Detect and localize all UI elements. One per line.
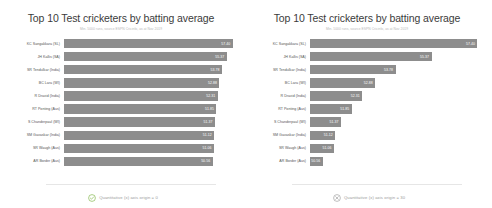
bar-value-label: 53.78 — [384, 67, 396, 73]
bar-value-label: 55.37 — [215, 54, 227, 60]
bar-value-label: 52.88 — [208, 80, 220, 86]
bar-track: 51.37 — [64, 117, 236, 126]
bar-row: SR Tendulkar (India)53.78 — [6, 63, 236, 76]
right-chart-subtitle: Min. 5000 runs, source ESPN Cricinfo, as… — [254, 26, 480, 32]
bar-row: S Chanderpaul (WI)51.37 — [6, 116, 236, 129]
left-chart-title: Top 10 Test cricketers by batting averag… — [8, 12, 234, 25]
bar-category-label: SM Gavaskar (India) — [252, 132, 310, 138]
bar-category-label: SM Gavaskar (India) — [6, 132, 64, 138]
left-footer-label: Quantitative (x) axis origin = 0 — [99, 194, 158, 202]
bar-track: 51.06 — [310, 144, 482, 153]
bar-value-label: 52.31 — [351, 93, 363, 99]
bar-track: 57.40 — [310, 39, 482, 48]
bar-value-label: 57.40 — [221, 41, 233, 47]
right-footer-divider — [292, 184, 462, 185]
bar-row: JH Kallis (SA)55.37 — [252, 50, 482, 63]
bar-track: 51.12 — [64, 131, 236, 140]
bar-category-label: R Dravid (India) — [252, 93, 310, 99]
bar-track: 50.56 — [64, 157, 236, 166]
bar-track: 52.88 — [310, 78, 482, 87]
bar-track: 53.78 — [310, 65, 482, 74]
bar-category-label: BC Lara (WI) — [6, 80, 64, 86]
bar-category-label: R Dravid (India) — [6, 93, 64, 99]
bar-track: 52.88 — [64, 78, 236, 87]
bar-category-label: KC Sangakkara (SL) — [252, 41, 310, 47]
bar-row: RT Ponting (Aus)51.85 — [6, 102, 236, 115]
bar-category-label: AR Border (Aus) — [6, 158, 64, 164]
bar-row: BC Lara (WI)52.88 — [252, 76, 482, 89]
two-panel-bar-chart-figure: Top 10 Test cricketers by batting averag… — [0, 0, 492, 208]
bar-track: 50.56 — [310, 157, 482, 166]
left-chart-footer: Quantitative (x) axis origin = 0 — [0, 194, 246, 202]
bar: 51.85 — [310, 104, 352, 113]
bar-value-label: 51.85 — [340, 106, 352, 112]
bar-track: 51.85 — [310, 104, 482, 113]
bar-track: 51.12 — [310, 131, 482, 140]
bar-category-label: JH Kallis (SA) — [252, 54, 310, 60]
left-chart-subtitle: Min. 5000 runs, source ESPN Cricinfo, as… — [8, 26, 234, 32]
bar-row: SM Gavaskar (India)51.12 — [252, 129, 482, 142]
left-chart-panel: Top 10 Test cricketers by batting averag… — [0, 0, 246, 208]
right-chart-plot-area: KC Sangakkara (SL)57.40JH Kallis (SA)55.… — [246, 37, 492, 168]
bar-track: 51.06 — [64, 144, 236, 153]
bar: 51.12 — [310, 131, 335, 140]
cross-circle-icon — [333, 194, 341, 202]
bar-category-label: S Chanderpaul (WI) — [252, 119, 310, 125]
bar: 57.40 — [310, 39, 477, 48]
bar-track: 57.40 — [64, 39, 236, 48]
bar-category-label: SR Waugh (Aus) — [6, 145, 64, 151]
bar-value-label: 52.31 — [206, 93, 218, 99]
bar-category-label: SR Tendulkar (India) — [6, 67, 64, 73]
bar: 53.78 — [64, 65, 222, 74]
bar-row: AR Border (Aus)50.56 — [6, 155, 236, 168]
bar-value-label: 53.78 — [211, 67, 223, 73]
right-chart-title: Top 10 Test cricketers by batting averag… — [254, 12, 480, 25]
bar-value-label: 51.06 — [322, 145, 334, 151]
bar: 50.56 — [310, 157, 323, 166]
bar-row: R Dravid (India)52.31 — [252, 89, 482, 102]
bar-category-label: AR Border (Aus) — [252, 158, 310, 164]
bar-value-label: 52.88 — [364, 80, 376, 86]
bar: 52.31 — [64, 91, 218, 100]
bar-track: 52.31 — [64, 91, 236, 100]
bar: 55.37 — [64, 52, 227, 61]
check-circle-icon — [88, 194, 96, 202]
bar: 50.56 — [64, 157, 213, 166]
left-chart-plot-area: KC Sangakkara (SL)57.40JH Kallis (SA)55.… — [0, 37, 246, 168]
bar-row: SR Waugh (Aus)51.06 — [6, 142, 236, 155]
bar-value-label: 51.12 — [203, 132, 215, 138]
bar-track: 55.37 — [310, 52, 482, 61]
bar-row: SR Tendulkar (India)53.78 — [252, 63, 482, 76]
bar: 51.37 — [310, 117, 341, 126]
bar-value-label: 51.06 — [203, 145, 215, 151]
bar-value-label: 55.37 — [420, 54, 432, 60]
bar-category-label: KC Sangakkara (SL) — [6, 41, 64, 47]
bar-track: 51.85 — [64, 104, 236, 113]
bar: 55.37 — [310, 52, 432, 61]
bar-value-label: 51.85 — [205, 106, 217, 112]
bar-row: JH Kallis (SA)55.37 — [6, 50, 236, 63]
bar-track: 51.37 — [310, 117, 482, 126]
bar: 52.88 — [310, 78, 375, 87]
bar: 53.78 — [310, 65, 396, 74]
bar-category-label: RT Ponting (Aus) — [252, 106, 310, 112]
left-footer-divider — [46, 184, 216, 185]
right-chart-footer: Quantitative (x) axis origin = 30 — [246, 194, 492, 202]
bar-row: SR Waugh (Aus)51.06 — [252, 142, 482, 155]
bar: 51.37 — [64, 117, 215, 126]
bar-category-label: SR Tendulkar (India) — [252, 67, 310, 73]
bar: 51.12 — [64, 131, 214, 140]
bar-value-label: 50.56 — [201, 158, 213, 164]
bar-row: R Dravid (India)52.31 — [6, 89, 236, 102]
right-footer-label: Quantitative (x) axis origin = 30 — [344, 194, 405, 202]
bar-row: BC Lara (WI)52.88 — [6, 76, 236, 89]
bar-value-label: 51.37 — [204, 119, 216, 125]
bar-category-label: S Chanderpaul (WI) — [6, 119, 64, 125]
bar-category-label: SR Waugh (Aus) — [252, 145, 310, 151]
bar: 52.88 — [64, 78, 219, 87]
bar-track: 52.31 — [310, 91, 482, 100]
bar-value-label: 50.56 — [311, 158, 323, 164]
bar-value-label: 51.12 — [324, 132, 336, 138]
bar-row: KC Sangakkara (SL)57.40 — [6, 37, 236, 50]
bar: 51.06 — [64, 144, 214, 153]
